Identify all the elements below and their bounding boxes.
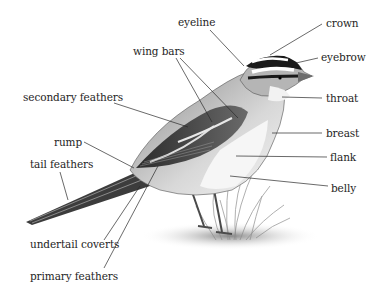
label-tail-feathers: tail feathers	[30, 158, 93, 170]
eye	[278, 76, 281, 79]
label-undertail-coverts: undertail coverts	[30, 238, 119, 250]
bird-illustration	[0, 0, 379, 300]
label-breast: breast	[326, 127, 359, 139]
label-eyebrow: eyebrow	[321, 51, 366, 63]
bird-anatomy-diagram: eyeline crown wing bars eyebrow secondar…	[0, 0, 379, 300]
label-crown: crown	[326, 17, 358, 29]
label-belly: belly	[331, 182, 356, 194]
label-secondary-feathers: secondary feathers	[23, 91, 123, 103]
label-flank: flank	[330, 151, 356, 163]
label-throat: throat	[326, 92, 358, 104]
label-wing-bars: wing bars	[133, 45, 185, 57]
label-rump: rump	[54, 136, 82, 148]
label-primary-feathers: primary feathers	[30, 270, 118, 282]
label-eyeline: eyeline	[178, 16, 215, 28]
ground-shadow	[140, 222, 320, 250]
